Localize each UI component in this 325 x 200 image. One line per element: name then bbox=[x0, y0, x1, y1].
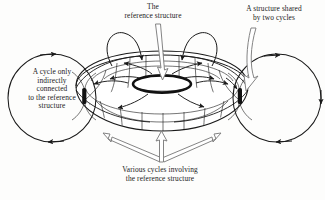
right-cycle-circle bbox=[233, 54, 321, 142]
right-cycle-arrow-bottom bbox=[276, 141, 292, 142]
label-various-cycles: Various cycles involving the reference s… bbox=[92, 166, 228, 183]
label-reference-structure: The reference structure bbox=[97, 3, 209, 20]
left-cycle-arrow-bottom bbox=[48, 141, 64, 142]
various-cycles-pointer-arrow bbox=[103, 131, 221, 162]
diagram-canvas: The reference structure A structure shar… bbox=[0, 0, 325, 200]
left-cycle-arrow-top bbox=[40, 54, 56, 55]
label-shared-structure: A structure shared by two cycles bbox=[226, 5, 322, 22]
label-indirect-cycle: A cycle only indirectly connected to the… bbox=[14, 68, 90, 111]
